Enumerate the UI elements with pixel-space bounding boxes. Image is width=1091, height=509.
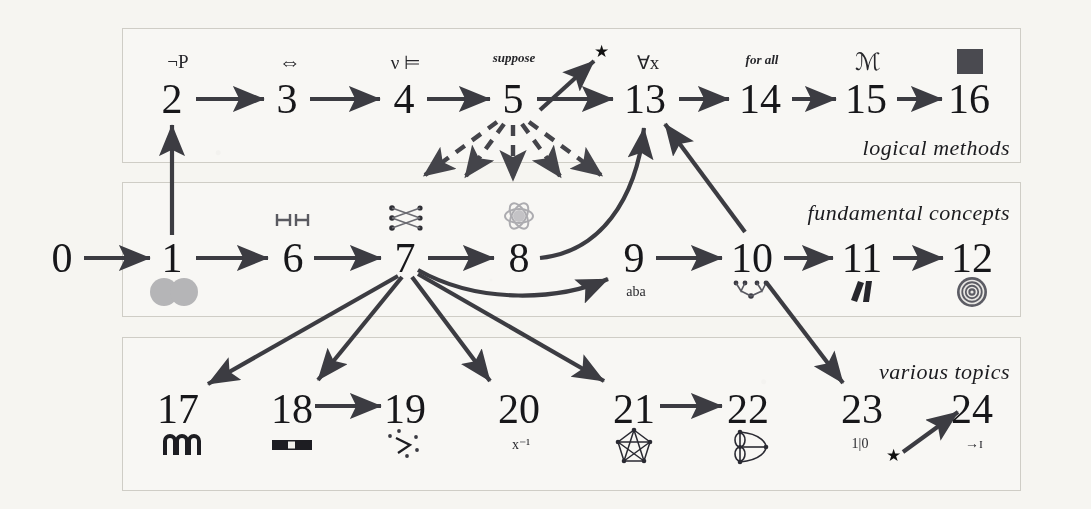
node-13[interactable]: 13 <box>624 78 666 120</box>
node-21[interactable]: 21 <box>613 388 655 430</box>
section-title-various-topics: various topics <box>879 359 1010 385</box>
star-top-icon: ★ <box>594 43 609 60</box>
edge-5-fan-4 <box>522 124 560 176</box>
node-5-top-label: suppose <box>493 50 536 66</box>
node-12[interactable]: 12 <box>951 237 993 279</box>
edge-5-fan-2 <box>466 124 504 176</box>
node-20[interactable]: 20 <box>498 388 540 430</box>
node-1[interactable]: 1 <box>162 237 183 279</box>
node-7[interactable]: 7 <box>395 237 416 279</box>
edge-5-star <box>540 61 594 110</box>
node-24[interactable]: 24 <box>951 388 993 430</box>
edge-10-23 <box>766 282 843 383</box>
node-9[interactable]: 9 <box>624 237 645 279</box>
node-23[interactable]: 23 <box>841 388 883 430</box>
node-22[interactable]: 22 <box>727 388 769 430</box>
edge-10-13 <box>665 124 745 232</box>
node-14-top-label: for all <box>746 52 779 68</box>
node-13-top-label: ∀x <box>637 51 660 74</box>
star-bottom-icon: ★ <box>886 447 901 464</box>
section-title-logical-methods: logical methods <box>863 135 1010 161</box>
edge-7-17 <box>208 276 398 384</box>
node-23-bottom-label: 1|0 <box>852 436 869 452</box>
node-2-top-label: ¬P <box>167 51 188 73</box>
node-10[interactable]: 10 <box>731 237 773 279</box>
node-11[interactable]: 11 <box>842 237 882 279</box>
node-3-top-label: ⇔ <box>279 49 301 75</box>
edge-star-24 <box>903 412 958 452</box>
node-4-top-label: ν ⊨ <box>391 51 421 74</box>
node-6[interactable]: 6 <box>283 237 304 279</box>
node-20-bottom-label: x⁻¹ <box>512 436 530 453</box>
node-18[interactable]: 18 <box>271 388 313 430</box>
node-24-bottom-label: →ɪ <box>965 436 983 452</box>
section-title-fundamental-concepts: fundamental concepts <box>808 200 1010 226</box>
node-3[interactable]: 3 <box>277 78 298 120</box>
node-8[interactable]: 8 <box>509 237 530 279</box>
node-4[interactable]: 4 <box>394 78 415 120</box>
node-9-bottom-label: aba <box>626 284 645 300</box>
node-15[interactable]: 15 <box>845 78 887 120</box>
node-5[interactable]: 5 <box>503 78 524 120</box>
node-2[interactable]: 2 <box>162 78 183 120</box>
diagram-canvas: 0 1 2 3 4 5 6 7 8 9 10 11 12 13 14 15 16… <box>0 0 1091 509</box>
node-17[interactable]: 17 <box>157 388 199 430</box>
edge-7-18 <box>318 277 402 380</box>
node-15-top-label: ℳ <box>855 48 881 76</box>
node-19[interactable]: 19 <box>384 388 426 430</box>
node-16[interactable]: 16 <box>948 78 990 120</box>
node-14[interactable]: 14 <box>739 78 781 120</box>
node-0[interactable]: 0 <box>52 237 73 279</box>
